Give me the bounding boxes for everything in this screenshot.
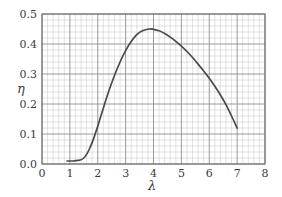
y-axis-title: η xyxy=(17,81,25,96)
x-tick-label: 5 xyxy=(178,167,185,180)
efficiency-vs-tip-speed-ratio-chart: 012345678 0.00.10.20.30.40.5 λ η xyxy=(0,0,282,197)
x-tick-label: 7 xyxy=(234,167,241,180)
y-tick-label: 0.2 xyxy=(20,98,38,111)
y-tick-label: 0.3 xyxy=(20,68,38,81)
chart-figure: 012345678 0.00.10.20.30.40.5 λ η xyxy=(0,0,282,197)
x-tick-label: 0 xyxy=(39,167,46,180)
x-tick-label: 3 xyxy=(122,167,129,180)
y-tick-label: 0.4 xyxy=(20,38,38,51)
y-tick-label: 0.1 xyxy=(20,128,38,141)
y-tick-label: 0.0 xyxy=(20,158,38,171)
x-tick-label: 8 xyxy=(262,167,269,180)
x-axis-title: λ xyxy=(147,178,156,193)
y-tick-label: 0.5 xyxy=(20,8,38,21)
x-tick-label: 2 xyxy=(94,167,101,180)
x-tick-label: 1 xyxy=(66,167,73,180)
x-tick-label: 6 xyxy=(206,167,213,180)
